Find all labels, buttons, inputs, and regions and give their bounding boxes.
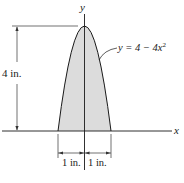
parabola-diagram: y x y = 4 − 4x2 4 in. 1 in. 1 in. — [0, 0, 184, 183]
arrow-up-icon — [15, 27, 18, 32]
equation-exponent: 2 — [163, 41, 167, 49]
curve-equation-label: y = 4 − 4x2 — [117, 41, 167, 53]
arrow-left-icon — [59, 151, 64, 154]
height-dimension-label: 4 in. — [2, 67, 22, 79]
equation-prefix: y = 4 − 4 — [117, 42, 159, 53]
left-width-dimension-label: 1 in. — [62, 157, 81, 168]
arrow-left-icon — [85, 151, 90, 154]
arrow-right-icon — [80, 151, 85, 154]
equation-leader-line — [99, 48, 117, 60]
right-width-dimension-label: 1 in. — [88, 157, 107, 168]
diagram-canvas: y x y = 4 − 4x2 4 in. 1 in. 1 in. — [0, 0, 184, 183]
x-axis-label: x — [173, 124, 179, 136]
y-axis-label: y — [79, 1, 85, 13]
arrow-right-icon — [106, 151, 111, 154]
arrow-down-icon — [15, 126, 18, 131]
